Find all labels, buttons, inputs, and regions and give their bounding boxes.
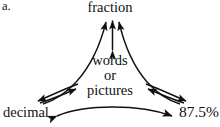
center-line-2: or <box>0 68 220 83</box>
arrow-decimal-percent <box>57 107 172 116</box>
center-line-1: words <box>0 53 220 68</box>
node-label-decimal: decimal <box>3 105 49 120</box>
center-line-3: pictures <box>0 83 220 98</box>
node-label-fraction: fraction <box>0 0 220 15</box>
node-label-center: words or pictures <box>0 53 220 99</box>
diagram-page: a. fraction words or pictures decimal 87… <box>0 0 220 127</box>
node-label-percent: 87.5% <box>179 104 219 120</box>
